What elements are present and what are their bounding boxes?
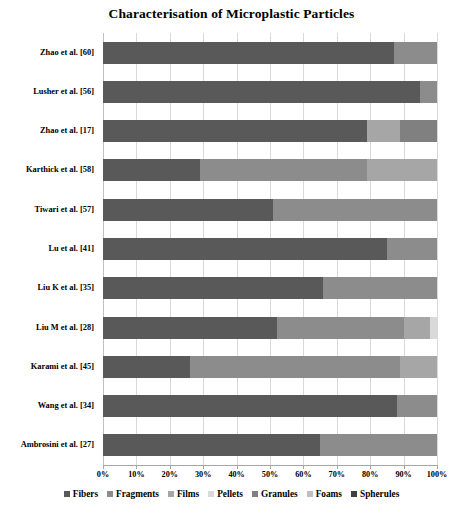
bar-row (103, 159, 437, 181)
x-axis-ticks: 0%10%20%30%40%50%60%70%80%90%100% (103, 465, 437, 481)
bar-row (103, 395, 437, 417)
bar-segment-fibers (103, 159, 200, 181)
y-axis-label: Wang et al. [34] (0, 401, 94, 411)
legend-swatch-icon (252, 491, 258, 497)
bar-track (103, 434, 437, 456)
x-tick-mark (237, 465, 238, 469)
x-tick-label: 70% (329, 470, 345, 479)
legend-item-foams[interactable]: Foams (307, 489, 342, 499)
x-tick-label: 20% (162, 470, 178, 479)
chart-legend: FibersFragmentsFilmsPelletsGranulesFoams… (0, 489, 463, 499)
bar-track (103, 120, 437, 142)
bar-segment-fragments (200, 159, 367, 181)
legend-label: Fibers (73, 489, 98, 499)
chart-container: Characterisation of Microplastic Particl… (0, 0, 463, 521)
y-axis-label: Liu K et al. [35] (0, 283, 94, 293)
bar-segment-fragments (397, 395, 437, 417)
bar-track (103, 277, 437, 299)
x-tick-label: 50% (262, 470, 278, 479)
legend-label: Granules (261, 489, 298, 499)
bar-row (103, 199, 437, 221)
bar-segment-films (400, 356, 437, 378)
bar-segment-fibers (103, 317, 277, 339)
legend-item-pellets[interactable]: Pellets (208, 489, 243, 499)
bar-segment-fragments (323, 277, 437, 299)
bar-row (103, 238, 437, 260)
x-tick-mark (270, 465, 271, 469)
legend-swatch-icon (307, 491, 313, 497)
x-tick-mark (203, 465, 204, 469)
bar-track (103, 42, 437, 64)
legend-label: Films (177, 489, 199, 499)
legend-item-spherules[interactable]: Spherules (351, 489, 399, 499)
legend-label: Fragments (116, 489, 159, 499)
bar-segment-fragments (420, 81, 437, 103)
x-tick-label: 60% (295, 470, 311, 479)
bar-segment-fragments (190, 356, 400, 378)
x-tick-mark (437, 465, 438, 469)
bar-segment-fragments (320, 434, 437, 456)
x-tick-label: 90% (395, 470, 411, 479)
legend-item-fragments[interactable]: Fragments (107, 489, 159, 499)
x-tick-mark (404, 465, 405, 469)
y-axis-label: Lusher et al. [56] (0, 87, 94, 97)
x-tick-label: 0% (97, 470, 109, 479)
bar-row (103, 317, 437, 339)
bar-segment-fragments (387, 238, 437, 260)
bar-track (103, 159, 437, 181)
legend-label: Foams (316, 489, 342, 499)
y-axis-label: Zhao et al. [60] (0, 48, 94, 58)
x-tick-label: 80% (362, 470, 378, 479)
bar-row (103, 434, 437, 456)
bar-segment-fibers (103, 120, 367, 142)
bar-rows (103, 33, 437, 465)
gridline-100 (437, 33, 438, 465)
legend-swatch-icon (351, 491, 357, 497)
bar-row (103, 42, 437, 64)
y-axis-label: Lu et al. [41] (0, 244, 94, 254)
bar-segment-fibers (103, 277, 323, 299)
x-tick-mark (337, 465, 338, 469)
x-tick-mark (370, 465, 371, 469)
legend-label: Pellets (217, 489, 243, 499)
bar-row (103, 120, 437, 142)
legend-item-fibers[interactable]: Fibers (64, 489, 98, 499)
bar-track (103, 199, 437, 221)
bar-row (103, 277, 437, 299)
legend-swatch-icon (64, 491, 70, 497)
x-tick-label: 100% (427, 470, 447, 479)
legend-item-films[interactable]: Films (168, 489, 199, 499)
bar-segment-fibers (103, 434, 320, 456)
x-tick-label: 10% (128, 470, 144, 479)
y-axis-label: Karthick et al. [58] (0, 165, 94, 175)
x-tick-label: 40% (228, 470, 244, 479)
bar-segment-fibers (103, 356, 190, 378)
x-tick-mark (170, 465, 171, 469)
bar-track (103, 317, 437, 339)
bar-segment-fibers (103, 395, 397, 417)
bar-track (103, 238, 437, 260)
bar-track (103, 81, 437, 103)
bar-segment-fragments (277, 317, 404, 339)
plot-area (103, 33, 437, 465)
x-tick-mark (303, 465, 304, 469)
y-axis-label: Tiwari et al. [57] (0, 205, 94, 215)
y-axis-label: Zhao et al. [17] (0, 126, 94, 136)
bar-track (103, 395, 437, 417)
legend-swatch-icon (168, 491, 174, 497)
bar-segment-films (367, 159, 437, 181)
y-axis-label: Ambrosini et al. [27] (0, 440, 94, 450)
x-tick-label: 30% (195, 470, 211, 479)
bar-segment-films (367, 120, 400, 142)
y-axis-labels: Zhao et al. [60]Lusher et al. [56]Zhao e… (0, 33, 99, 465)
legend-item-granules[interactable]: Granules (252, 489, 298, 499)
legend-swatch-icon (107, 491, 113, 497)
bar-track (103, 356, 437, 378)
bar-segment-films (404, 317, 431, 339)
chart-title: Characterisation of Microplastic Particl… (0, 6, 463, 22)
bar-segment-fragments (273, 199, 437, 221)
bar-segment-fibers (103, 199, 273, 221)
x-tick-mark (103, 465, 104, 469)
bar-segment-fibers (103, 42, 394, 64)
bar-row (103, 81, 437, 103)
